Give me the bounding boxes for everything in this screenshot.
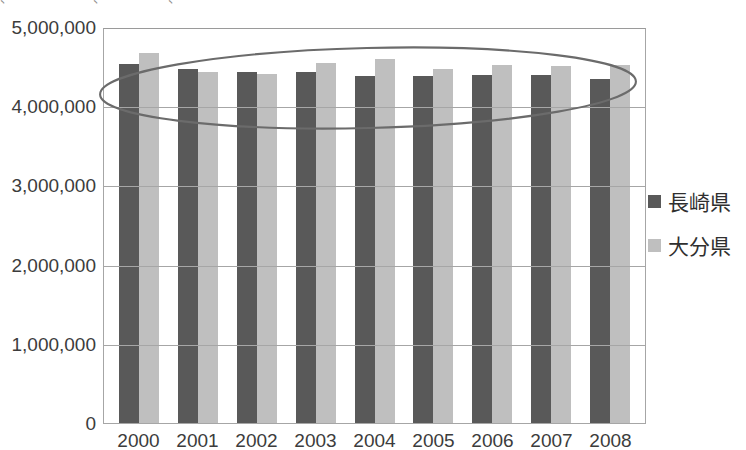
x-tick-label: 2000 <box>109 430 168 450</box>
clipped-caption-text: 、 ・ ・ ・ ・ 、 ・ ・ ・ 、 ・ ・ ・ ・ <box>0 0 746 4</box>
x-tick-label: 2004 <box>345 430 404 450</box>
bar <box>551 66 571 423</box>
bar-group <box>345 29 404 423</box>
bar-group <box>286 29 345 423</box>
gridline <box>104 345 645 346</box>
legend-item: 大分県 <box>648 230 746 260</box>
y-tick-label: 3,000,000 <box>11 175 96 197</box>
bar <box>375 59 395 423</box>
bar <box>590 79 610 423</box>
gridline <box>104 107 645 108</box>
bar <box>355 76 375 423</box>
x-tick-label: 2003 <box>286 430 345 450</box>
legend-swatch-square-icon <box>648 195 661 208</box>
bar <box>119 64 139 423</box>
bar <box>610 65 630 423</box>
x-tick-label: 2007 <box>522 430 581 450</box>
x-tick-label: 2001 <box>168 430 227 450</box>
y-tick-label: 0 <box>85 413 96 435</box>
gridline <box>104 266 645 267</box>
bar-group <box>521 29 580 423</box>
legend-item: 長崎県 <box>648 186 746 216</box>
plot-area <box>103 28 646 424</box>
x-tick-label: 2005 <box>404 430 463 450</box>
y-tick-label: 5,000,000 <box>11 17 96 39</box>
legend-label: 大分県 <box>668 230 731 260</box>
x-axis-labels: 200020012002200320042005200620072008 <box>103 430 646 450</box>
x-tick-label: 2006 <box>463 430 522 450</box>
bar <box>178 69 198 423</box>
bar-group <box>463 29 522 423</box>
legend-label: 長崎県 <box>668 186 731 216</box>
bar <box>531 75 551 423</box>
gridline <box>104 186 645 187</box>
bar <box>316 63 336 423</box>
bar-group <box>169 29 228 423</box>
bar-group <box>110 29 169 423</box>
bar <box>472 75 492 423</box>
legend-swatch-square-icon <box>648 239 661 252</box>
y-tick-label: 4,000,000 <box>11 96 96 118</box>
x-tick-label: 2008 <box>581 430 640 450</box>
bar <box>198 72 218 423</box>
bar <box>492 65 512 423</box>
y-tick-label: 2,000,000 <box>11 255 96 277</box>
chart-legend: 長崎県大分県 <box>648 186 746 274</box>
x-tick-label: 2002 <box>227 430 286 450</box>
bar-groups <box>104 29 645 423</box>
bar <box>433 69 453 423</box>
bar <box>296 72 316 423</box>
bar <box>139 53 159 423</box>
bar <box>257 74 277 423</box>
clipped-caption-sliver: 、 ・ ・ ・ ・ 、 ・ ・ ・ 、 ・ ・ ・ ・ <box>0 0 746 11</box>
y-tick-label: 1,000,000 <box>11 334 96 356</box>
bar <box>237 72 257 423</box>
y-axis-labels: 01,000,0002,000,0003,000,0004,000,0005,0… <box>0 14 96 450</box>
bar-group <box>228 29 287 423</box>
chart-page: 、 ・ ・ ・ ・ 、 ・ ・ ・ 、 ・ ・ ・ ・ 01,000,0002,… <box>0 0 746 450</box>
bar <box>413 76 433 424</box>
bar-group <box>580 29 639 423</box>
bar-group <box>404 29 463 423</box>
bar-chart: 01,000,0002,000,0003,000,0004,000,0005,0… <box>0 14 746 450</box>
